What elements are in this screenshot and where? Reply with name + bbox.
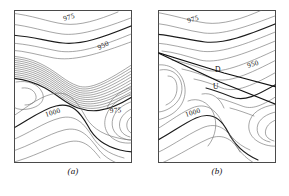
contour-label-975-a-right: 975 (110, 106, 122, 115)
panel-a-canvas: 975 950 1000 975 (14, 10, 132, 163)
caption-panel-b: (b) (158, 166, 276, 176)
fault-marker-d: D (215, 65, 221, 74)
caption-panel-a: (a) (14, 166, 132, 176)
fault-marker-u: U (213, 82, 219, 91)
panel-b: 975 950 1000 D U (158, 10, 276, 163)
panel-b-canvas: 975 950 1000 D U (158, 10, 276, 163)
panel-a: 975 950 1000 975 (14, 10, 132, 163)
figure-structure-contour-maps: 975 950 1000 975 (a) (0, 0, 289, 196)
